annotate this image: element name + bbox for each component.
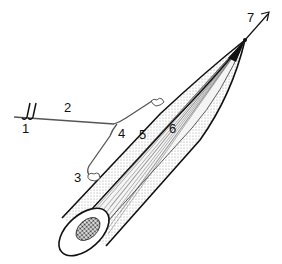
label-5: 5 (139, 127, 146, 142)
clamp-lower (88, 173, 100, 181)
label-1: 1 (22, 121, 29, 136)
fiber-bundle (80, 40, 245, 234)
label-4: 4 (118, 126, 125, 141)
label-7: 7 (247, 10, 254, 25)
hook-electrode (22, 103, 36, 119)
label-2: 2 (64, 100, 71, 115)
label-3: 3 (74, 170, 81, 185)
nerve-fiber-diagram: 1 2 3 4 5 6 7 (0, 0, 282, 264)
clamp-upper (151, 98, 164, 106)
label-6: 6 (169, 121, 176, 136)
